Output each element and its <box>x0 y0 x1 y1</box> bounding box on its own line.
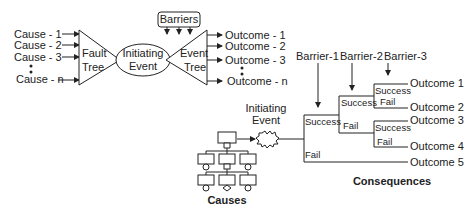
success-label: Success <box>305 116 341 127</box>
barrier-headers: Barrier-1 Barrier-2 Barrier-3 <box>296 50 427 62</box>
tree-outcome-1: Outcome 1 <box>410 77 464 89</box>
event-tree-label-2: Tree <box>184 61 206 73</box>
barrier-arrows <box>167 27 190 34</box>
fault-tree-label-1: Fault <box>82 47 106 59</box>
branch-labels: Success Success Success Fail Fail Succes… <box>305 85 411 160</box>
fail-label: Fail <box>305 149 320 160</box>
success-label: Success <box>341 97 377 108</box>
cause-3-label: Cause - 3 <box>14 51 62 63</box>
cause-n-label: Cause - n <box>16 73 64 85</box>
outcome-n-label: Outcome - n <box>227 75 288 87</box>
success-label: Success <box>375 85 411 96</box>
tree-outcomes: Outcome 1 Outcome 2 Outcome 3 Outcome 4 … <box>410 77 464 168</box>
causes-caption: Causes <box>207 194 246 206</box>
causes-list: Cause - 1 Cause - 2 Cause - 3 Cause - n <box>14 28 64 85</box>
outcome-arrows <box>207 35 222 81</box>
fail-label: Fail <box>380 96 395 107</box>
tree-outcome-5: Outcome 5 <box>410 156 464 168</box>
outcome-2-label: Outcome - 2 <box>225 40 286 52</box>
bowtie-diagram: Cause - 1 Cause - 2 Cause - 3 Cause - n … <box>0 0 474 211</box>
consequences-caption: Consequences <box>353 175 431 187</box>
fault-tree-icon <box>198 132 256 191</box>
initiating-event-title-2: Event <box>252 114 280 126</box>
initiating-event-label-2: Event <box>129 60 157 72</box>
success-label: Success <box>375 122 411 133</box>
initiating-event-title-1: Initiating <box>246 102 287 114</box>
barrier-3-label: Barrier-3 <box>384 50 427 62</box>
cause-2-label: Cause - 2 <box>14 39 62 51</box>
fail-label: Fail <box>343 120 358 131</box>
barrier-1-label: Barrier-1 <box>296 50 339 62</box>
fail-label: Fail <box>377 136 392 147</box>
event-tree-label-1: Event <box>180 47 208 59</box>
tree-outcome-4: Outcome 4 <box>410 140 464 152</box>
tree-outcome-2: Outcome 2 <box>410 101 464 113</box>
tree-outcome-3: Outcome 3 <box>410 114 464 126</box>
outcome-3-label: Outcome - 3 <box>225 54 286 66</box>
barrier-2-label: Barrier-2 <box>340 50 383 62</box>
initiating-event-label-1: Initiating <box>123 47 164 59</box>
barriers-label: Barriers <box>160 13 199 25</box>
explosion-icon <box>256 131 279 148</box>
fault-tree-label-2: Tree <box>82 61 104 73</box>
outcomes-list: Outcome - 1 Outcome - 2 Outcome - 3 Outc… <box>225 29 288 87</box>
